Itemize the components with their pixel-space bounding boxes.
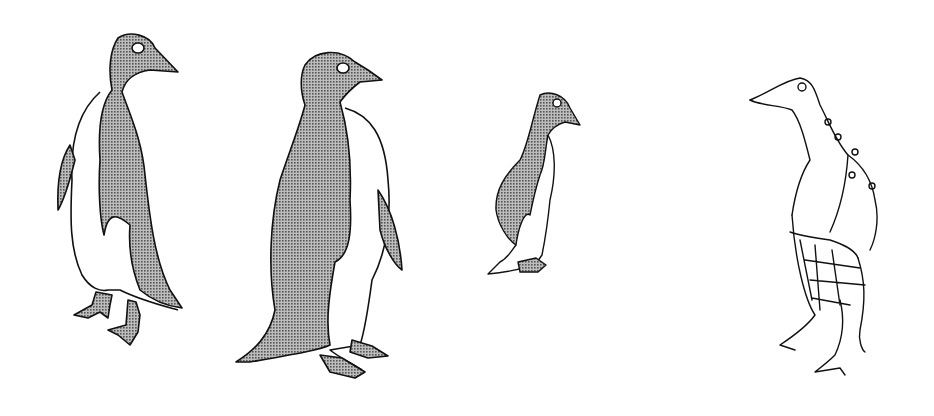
- penguin-2: [236, 53, 402, 378]
- penguin-1: [58, 34, 182, 345]
- penguin-3: [488, 93, 580, 274]
- penguin-illustration: [0, 0, 934, 416]
- penguin-4: [750, 78, 877, 375]
